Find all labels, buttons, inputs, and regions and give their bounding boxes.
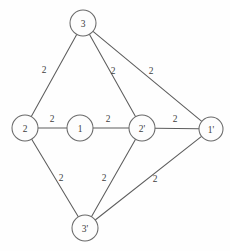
node-label-3p: 3': [82, 224, 89, 234]
node-label-1p: 1': [208, 125, 215, 135]
graph-edge-2p-1p: [155, 128, 199, 129]
edges-layer: [31, 31, 201, 220]
graph-edge-2-3p: [32, 139, 79, 217]
graph-canvas: 3212'1'3' 222222222: [0, 0, 230, 251]
graph-node-1p: 1': [199, 117, 223, 141]
nodes-layer: 3212'1'3': [12, 10, 223, 241]
edge-weights-layer: 222222222: [42, 65, 178, 184]
graph-node-3p: 3': [72, 215, 98, 241]
node-label-3: 3: [81, 19, 86, 29]
edge-weight-3-1p: 2: [149, 66, 154, 76]
node-label-1: 1: [78, 124, 83, 134]
edge-weight-3-2p: 2: [111, 66, 116, 76]
edge-weight-1-2p: 2: [106, 114, 111, 124]
node-label-2p: 2': [139, 124, 146, 134]
edge-weight-2p-3p: 2: [102, 173, 107, 183]
graph-node-1: 1: [67, 115, 93, 141]
graph-diagram: 3212'1'3' 222222222: [0, 0, 230, 251]
edge-weight-2p-1p: 2: [173, 114, 178, 124]
graph-edge-3-1p: [93, 31, 202, 121]
graph-node-3: 3: [70, 10, 96, 36]
graph-node-2: 2: [12, 115, 38, 141]
edge-weight-1p-3p: 2: [153, 174, 158, 184]
graph-edge-3-2: [31, 34, 76, 116]
edge-weight-3-2: 2: [42, 65, 47, 75]
edge-weight-2-1: 2: [50, 114, 55, 124]
graph-edge-1p-3p: [95, 136, 201, 220]
node-label-2: 2: [23, 124, 28, 134]
edge-weight-2-3p: 2: [59, 173, 64, 183]
graph-node-2p: 2': [129, 115, 155, 141]
